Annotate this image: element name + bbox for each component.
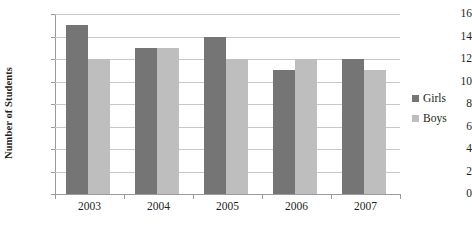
y-tick-label: 14 — [426, 31, 472, 42]
y-axis-title: Number of Students — [0, 0, 16, 226]
bar-group — [55, 14, 124, 194]
bar-group — [124, 14, 193, 194]
bar-girls-2007 — [342, 59, 364, 194]
bar-boys-2003 — [88, 59, 110, 194]
legend-label: Boys — [423, 112, 447, 124]
legend-item-girls[interactable]: Girls — [412, 88, 472, 108]
y-tick-label: 0 — [426, 188, 472, 199]
bar-boys-2004 — [157, 48, 179, 194]
bar-group — [262, 14, 331, 194]
y-tick-label: 16 — [426, 8, 472, 19]
y-tick-label: 4 — [426, 143, 472, 154]
bar-boys-2005 — [226, 59, 248, 194]
y-tick-label: 10 — [426, 76, 472, 87]
x-tick-label-2007: 2007 — [331, 199, 400, 213]
legend-swatch-icon — [412, 95, 419, 102]
bar-group — [331, 14, 400, 194]
bar-girls-2006 — [273, 70, 295, 194]
bar-girls-2005 — [204, 37, 226, 195]
legend-label: Girls — [423, 92, 446, 104]
x-tick-label-2005: 2005 — [193, 199, 262, 213]
legend-item-boys[interactable]: Boys — [412, 108, 472, 128]
gridline — [55, 194, 400, 195]
x-tick-label-2003: 2003 — [55, 199, 124, 213]
chart-legend: GirlsBoys — [412, 88, 472, 128]
bar-boys-2006 — [295, 59, 317, 194]
y-tick-label: 2 — [426, 166, 472, 177]
x-tick-label-2004: 2004 — [124, 199, 193, 213]
bar-girls-2003 — [66, 25, 88, 194]
bar-group — [193, 14, 262, 194]
y-tick-label: 12 — [426, 53, 472, 64]
bar-chart: Number of Students 0246810121416 2003200… — [0, 0, 472, 226]
x-tick-label-2006: 2006 — [262, 199, 331, 213]
bar-boys-2007 — [364, 70, 386, 194]
plot-area — [55, 14, 400, 194]
x-tick-mark — [400, 194, 401, 199]
legend-swatch-icon — [412, 115, 419, 122]
bar-girls-2004 — [135, 48, 157, 194]
